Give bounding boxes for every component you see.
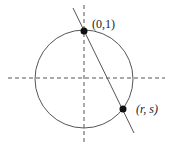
- point-rs: [120, 106, 127, 113]
- label-rs-point: (r, s): [136, 102, 158, 116]
- label-top-point: (0,1): [92, 17, 115, 31]
- point-top: [81, 28, 88, 35]
- unit-circle-diagram: (0,1) (r, s): [0, 0, 171, 145]
